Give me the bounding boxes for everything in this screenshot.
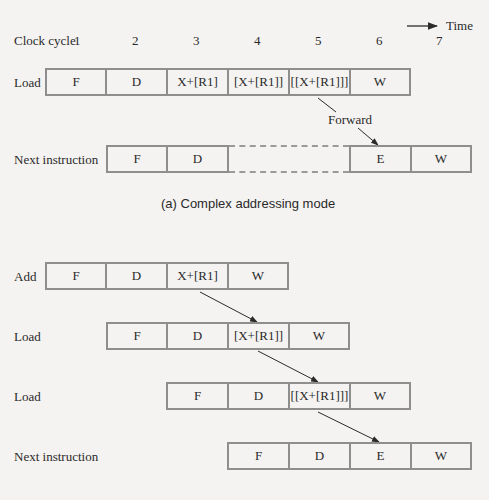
cycle-number: 5: [315, 33, 322, 49]
stage-cell: W: [410, 442, 472, 470]
cycle-number: 3: [193, 33, 200, 49]
stage-cell: D: [166, 145, 229, 173]
stage-cell: F: [166, 382, 229, 410]
forward-arrow-icon: [358, 128, 378, 145]
pipeline-row-add: F D X+[R1] W: [45, 262, 289, 290]
stage-cell: W: [227, 262, 289, 290]
time-label: Time: [446, 18, 473, 34]
pipeline-row-load: F D [[X+[R1]]] W: [166, 382, 411, 410]
cycle-number: 7: [436, 33, 443, 49]
row-label-load: Load: [14, 389, 41, 405]
stage-cell: F: [45, 68, 107, 96]
pipeline-row-load: F D X+[R1] [X+[R1]] [[X+[R1]]] W: [45, 68, 411, 96]
stage-cell: D: [227, 382, 290, 410]
stage-cell: F: [227, 442, 290, 470]
stage-cell: W: [410, 145, 472, 173]
stage-cell: [X+[R1]]: [227, 68, 290, 96]
clock-cycle-label: Clock cycle: [14, 33, 76, 49]
stage-cell: [[X+[R1]]]: [288, 68, 351, 96]
stage-cell: D: [166, 322, 229, 350]
stage-cell: [[X+[R1]]]: [288, 382, 351, 410]
stage-cell: F: [106, 145, 168, 173]
row-label-load: Load: [14, 329, 41, 345]
forward-line: [318, 98, 336, 112]
pipeline-row-load: F D [X+[R1]] W: [106, 322, 350, 350]
stage-cell: D: [288, 442, 351, 470]
stage-cell: [X+[R1]]: [227, 322, 290, 350]
stage-cell: F: [45, 262, 107, 290]
cycle-number: 2: [132, 33, 139, 49]
stage-cell: E: [349, 145, 412, 173]
stall-bubble: [229, 145, 349, 173]
row-label-add: Add: [14, 269, 36, 285]
cycle-number: 1: [74, 33, 81, 49]
stage-cell: D: [105, 262, 168, 290]
stage-cell: W: [349, 382, 411, 410]
dependency-arrow-3: [318, 412, 379, 442]
forward-label: Forward: [328, 112, 372, 128]
stage-cell: W: [288, 322, 350, 350]
stage-cell: X+[R1]: [166, 68, 229, 96]
cycle-number: 4: [254, 33, 261, 49]
dependency-arrow-1: [200, 292, 257, 322]
caption-a: (a) Complex addressing mode: [161, 196, 335, 211]
dependency-arrow-2: [258, 351, 318, 382]
row-label-load: Load: [14, 75, 41, 91]
stage-cell: E: [349, 442, 412, 470]
stage-cell: X+[R1]: [166, 262, 229, 290]
pipeline-row-next-instruction: F D E W: [227, 442, 472, 470]
cycle-number: 6: [376, 33, 383, 49]
stage-cell: D: [105, 68, 168, 96]
row-label-next-instruction: Next instruction: [14, 449, 98, 465]
stage-cell: F: [106, 322, 168, 350]
stage-cell: W: [349, 68, 411, 96]
pipeline-row-next-instruction: F D E W: [106, 145, 472, 173]
row-label-next-instruction: Next instruction: [14, 152, 98, 168]
